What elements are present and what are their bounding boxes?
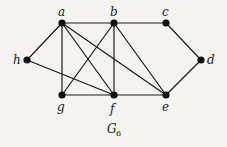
graph-caption-subscript: 6 (116, 129, 121, 138)
label-h: h (13, 53, 21, 67)
label-b: b (110, 5, 118, 19)
label-e: e (162, 100, 169, 114)
node-c (162, 19, 169, 26)
node-d (197, 56, 204, 63)
edges (27, 23, 201, 95)
label-f: f (109, 102, 117, 116)
node-e (162, 91, 169, 98)
edge-d-e (166, 60, 201, 95)
label-a: a (58, 5, 65, 19)
node-g (58, 91, 65, 98)
label-d: d (207, 53, 215, 67)
node-b (110, 19, 117, 26)
node-a (58, 19, 65, 26)
label-g: g (57, 100, 65, 114)
node-f (110, 91, 117, 98)
edge-b-e (114, 23, 166, 95)
node-h (23, 56, 30, 63)
edge-c-d (166, 23, 201, 60)
graph-g6: a b c h d g f e G 6 (0, 0, 227, 147)
label-c: c (162, 5, 169, 19)
edge-a-h (27, 23, 62, 60)
